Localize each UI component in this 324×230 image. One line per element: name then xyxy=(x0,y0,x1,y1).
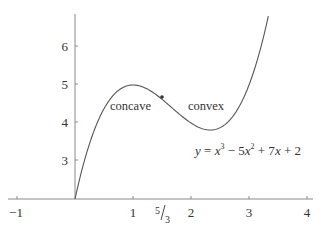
svg-text:3: 3 xyxy=(165,214,170,225)
cubic-function-chart: −1 1 5 3 2 3 4 6 5 4 3 concave convex y … xyxy=(0,0,324,230)
concave-label: concave xyxy=(110,99,151,113)
x-tick-label-4: 4 xyxy=(304,205,311,220)
convex-label: convex xyxy=(188,99,225,113)
function-curve xyxy=(75,16,268,199)
x-tick-label-3: 3 xyxy=(246,205,253,220)
svg-text:5: 5 xyxy=(155,205,160,216)
x-tick-label-2: 2 xyxy=(188,205,195,220)
equation-label: y = x3 − 5x2 + 7x + 2 xyxy=(193,142,301,158)
x-tick-label-neg1: −1 xyxy=(9,205,23,220)
x-tick-label-1: 1 xyxy=(130,205,137,220)
y-tick-label-4: 4 xyxy=(62,115,69,130)
y-tick-label-6: 6 xyxy=(62,39,69,54)
inflection-point-dot xyxy=(160,95,164,99)
x-tick-label-5-3: 5 3 xyxy=(155,205,170,225)
y-tick-label-3: 3 xyxy=(62,153,69,168)
y-tick-label-5: 5 xyxy=(62,77,69,92)
